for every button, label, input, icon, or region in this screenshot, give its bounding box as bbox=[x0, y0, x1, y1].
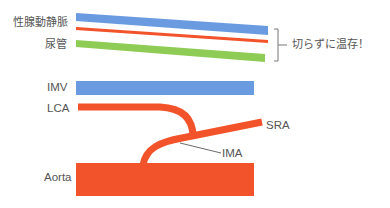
label-imv: IMV bbox=[47, 82, 67, 94]
bracket-note: 切らずに温存！ bbox=[292, 39, 369, 50]
ureter-band bbox=[76, 40, 265, 62]
imv-band bbox=[76, 81, 254, 95]
label-sra: SRA bbox=[266, 120, 290, 132]
ima-leader-line bbox=[180, 143, 221, 153]
ima-sra-trunk bbox=[143, 122, 262, 165]
label-aorta: Aorta bbox=[44, 172, 72, 184]
aorta-block bbox=[76, 163, 254, 196]
label-ureter: 尿管 bbox=[45, 39, 67, 50]
label-gonadal-vessels: 性腺動静脈 bbox=[13, 17, 68, 28]
bracket bbox=[274, 29, 287, 61]
label-lca: LCA bbox=[47, 103, 69, 115]
label-ima: IMA bbox=[222, 148, 242, 160]
lca-branch bbox=[78, 107, 193, 137]
